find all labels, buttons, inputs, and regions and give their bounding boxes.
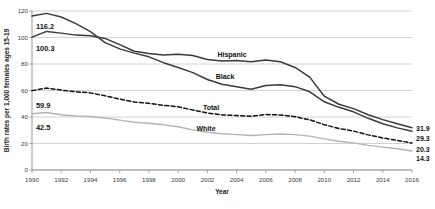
x-tick-label: 1994 [84, 176, 98, 183]
x-tick-label: 2010 [317, 176, 331, 183]
x-tick-label: 2008 [288, 176, 302, 183]
series-line-total [32, 88, 412, 143]
x-tick-label: 2014 [376, 176, 390, 183]
y-axis-title: Birth rates per 1,000 females ages 15-19 [3, 28, 11, 152]
y-tick-label: 20 [21, 140, 28, 147]
y-tick-label: 60 [21, 87, 28, 94]
x-tick-label: 2006 [259, 176, 273, 183]
x-tick-label: 2012 [347, 176, 361, 183]
x-tick-label: 1998 [142, 176, 156, 183]
x-tick-label: 1990 [25, 176, 39, 183]
start-value-black: 116.2 [36, 22, 54, 31]
x-tick-label: 2016 [405, 176, 419, 183]
x-axis-title: Year [215, 188, 229, 195]
y-tick-label: 80 [21, 60, 28, 67]
series-label-total: Total [203, 104, 219, 111]
x-tick-label: 2004 [230, 176, 244, 183]
start-value-total: 59.9 [36, 101, 50, 110]
chart-container: 0204060801001201990199219941996199820002… [0, 0, 435, 209]
end-value-white: 14.3 [416, 155, 430, 162]
y-tick-label: 40 [21, 113, 28, 120]
line-chart: 0204060801001201990199219941996199820002… [0, 0, 435, 209]
series-label-black: Black [216, 73, 235, 80]
start-value-white: 42.5 [36, 123, 50, 132]
series-label-hispanic: Hispanic [217, 51, 246, 59]
x-tick-label: 1992 [54, 176, 68, 183]
end-value-black: 29.3 [416, 135, 430, 142]
y-tick-label: 120 [18, 7, 29, 14]
end-value-total: 20.3 [416, 146, 430, 153]
y-tick-label: 0 [25, 166, 29, 173]
start-value-hispanic: 100.3 [36, 44, 55, 53]
x-tick-label: 1996 [113, 176, 127, 183]
y-tick-label: 100 [18, 34, 29, 41]
x-tick-label: 2000 [171, 176, 185, 183]
series-label-white: White [196, 125, 215, 132]
x-tick-label: 2002 [201, 176, 215, 183]
end-value-hispanic: 31.9 [416, 125, 430, 132]
